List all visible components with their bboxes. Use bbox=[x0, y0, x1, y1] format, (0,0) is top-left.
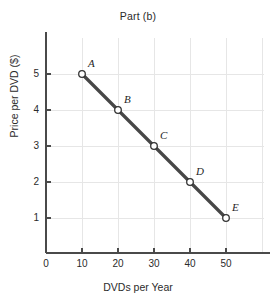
point-label-a: A bbox=[88, 57, 95, 69]
y-tick-label: 4 bbox=[25, 104, 39, 115]
data-point-marker-a bbox=[79, 71, 86, 78]
chart-figure: Part (b) Price per DVD ($) DVDs per Year… bbox=[0, 0, 276, 306]
data-point-marker-b bbox=[115, 107, 122, 114]
x-tick-label: 30 bbox=[141, 258, 167, 269]
data-point-marker-d bbox=[187, 179, 194, 186]
y-tick-label: 5 bbox=[25, 68, 39, 79]
axis-lines bbox=[46, 32, 270, 253]
x-tick-label: 10 bbox=[69, 258, 95, 269]
data-point-marker-c bbox=[151, 143, 158, 150]
x-tick-label: 20 bbox=[105, 258, 131, 269]
y-tick-label: 1 bbox=[25, 212, 39, 223]
x-tick-label: 0 bbox=[33, 258, 59, 269]
axis-ticks bbox=[46, 74, 226, 253]
y-tick-label: 3 bbox=[25, 140, 39, 151]
point-label-c: C bbox=[160, 129, 167, 141]
x-tick-label: 50 bbox=[213, 258, 239, 269]
data-point-marker-e bbox=[223, 215, 230, 222]
y-tick-label: 2 bbox=[25, 176, 39, 187]
point-label-e: E bbox=[232, 201, 239, 213]
x-tick-label: 40 bbox=[177, 258, 203, 269]
point-label-b: B bbox=[124, 93, 131, 105]
point-label-d: D bbox=[196, 165, 204, 177]
